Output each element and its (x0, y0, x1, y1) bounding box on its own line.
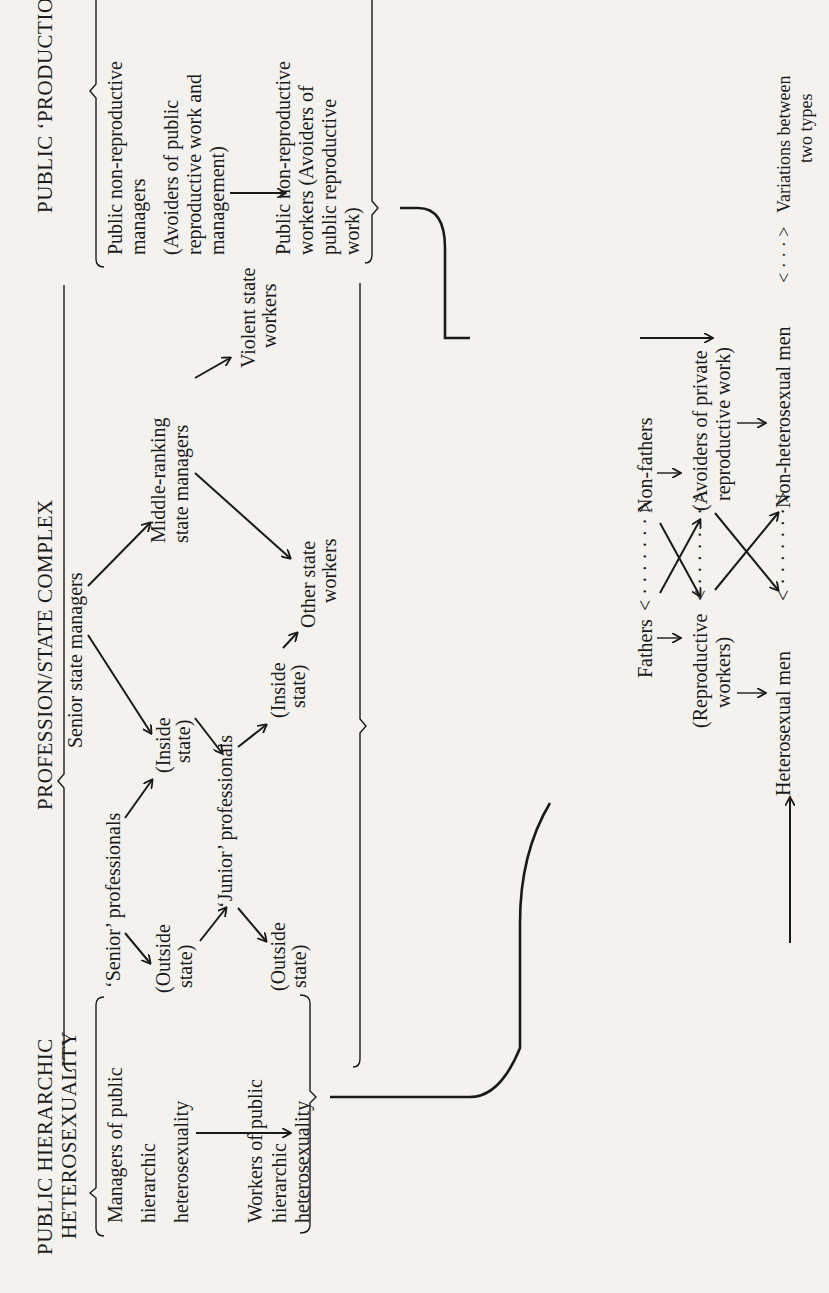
header-hierarchic-line1: PUBLIC HIERARCHIC (33, 1038, 57, 1255)
node-managers-phh: Managers of public hierarchic heterosexu… (104, 1062, 193, 1223)
node-pnr-managers-note: (Avoiders of public reproductive work an… (160, 69, 229, 255)
node-inside-state-1: (Inside state) (152, 712, 195, 773)
legend-text-line1: Variations between (774, 76, 794, 213)
arrow-senior-outside-to-junior (200, 908, 226, 941)
node-violent-workers: Violent state workers (237, 263, 280, 368)
node-workers-phh: Workers of public hierarchic heterosexua… (244, 1074, 314, 1223)
arrow-senior-prof-to-inside-1 (125, 780, 152, 818)
variation-row-fathers: < · · · · · · · > (634, 502, 656, 611)
arrow-junior-to-outside (238, 908, 266, 941)
node-reproductive-workers: (Reproductive workers) (689, 609, 735, 728)
node-fathers: Fathers (634, 619, 656, 678)
node-middle-ranking: Middle-ranking state managers (147, 412, 193, 543)
header-profession: PROFESSION/STATE COMPLEX (33, 499, 57, 810)
node-pnr-managers: Public non-reproductive managers (104, 56, 150, 255)
header-production: PUBLIC ‘PRODUCTION’ (33, 0, 57, 213)
node-other-workers: Other state workers (297, 536, 340, 628)
legend-text-line2: two types (796, 94, 816, 164)
node-inside-state-2: (Inside state) (267, 657, 310, 718)
node-junior-outside: (Outside state) (267, 917, 311, 991)
brace-production-bottom (365, 0, 378, 263)
brace-hierarchic (90, 997, 104, 1236)
node-senior-professionals: ‘Senior’ professionals (102, 812, 125, 988)
node-non-fathers: Non-fathers (634, 417, 656, 513)
connector-production-to-avoiders (400, 208, 470, 338)
arrow-middle-to-other (195, 473, 290, 558)
node-senior-state-managers: Senior state managers (64, 572, 87, 748)
brace-production-top (90, 0, 104, 267)
node-avoiders-private: (Avoiders of private reproductive work) (689, 345, 735, 511)
arrow-senior-prof-to-outside (125, 933, 150, 963)
header-hierarchic-line2: HETEROSEXUALITY (57, 1031, 81, 1239)
arrow-ssm-to-inside-1 (88, 635, 151, 733)
arrow-ssm-to-middle (88, 523, 150, 586)
node-junior-professionals: ‘Junior’ professionals (214, 735, 237, 908)
legend-symbol: < · · · > (774, 227, 794, 283)
node-pnr-workers: Public non-reproductive workers (Avoider… (272, 56, 364, 255)
diagram-canvas: PUBLIC HIERARCHIC HETEROSEXUALITY PROFES… (0, 0, 829, 1293)
node-non-heterosexual-men: Non-heterosexual men (772, 326, 794, 508)
connector-phh-to-heterosexual-men (330, 803, 550, 1097)
node-senior-outside: (Outside state) (152, 919, 197, 993)
arrow-middle-to-violent (195, 358, 230, 378)
node-heterosexual-men: Heterosexual men (772, 651, 794, 796)
brace-profession-bottom (353, 283, 366, 1067)
arrow-inside-2-to-other (283, 633, 297, 648)
arrow-junior-to-inside-2 (238, 725, 266, 747)
